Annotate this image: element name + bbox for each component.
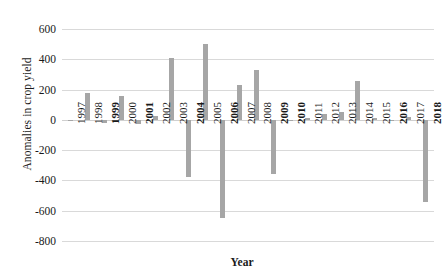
- x-tick-label-2009: 2009: [278, 102, 290, 124]
- bar-1997: [68, 120, 73, 121]
- bar-2004: [186, 120, 191, 178]
- gridline--200: [62, 150, 434, 151]
- x-axis-title: Year: [0, 256, 444, 268]
- y-tick-label--400: -400: [35, 174, 56, 186]
- bar-2018: [423, 120, 428, 202]
- x-tick-label-2014: 2014: [363, 102, 375, 124]
- x-tick-label-2003: 2003: [177, 102, 189, 124]
- x-tick-label-1998: 1998: [92, 102, 104, 124]
- y-tick-label-200: 200: [39, 84, 56, 96]
- x-tick-label-1999: 1999: [109, 102, 121, 124]
- x-tick-label-2008: 2008: [261, 102, 273, 124]
- x-tick-label-2000: 2000: [126, 102, 138, 124]
- gridline--600: [62, 211, 434, 212]
- y-tick-label-400: 400: [39, 53, 56, 65]
- y-tick-label-600: 600: [39, 23, 56, 35]
- x-tick-label-2018: 2018: [431, 102, 443, 124]
- x-tick-label-2017: 2017: [414, 102, 426, 124]
- y-tick-label--800: -800: [35, 235, 56, 247]
- y-axis-title: Anomalies in crop yield: [21, 19, 33, 209]
- y-tick-label-0: 0: [50, 114, 56, 126]
- x-tick-label-2002: 2002: [160, 102, 172, 124]
- x-tick-label-2010: 2010: [295, 102, 307, 124]
- x-tick-label-2007: 2007: [245, 102, 257, 124]
- gridline--800: [62, 241, 434, 242]
- gridline-200: [62, 90, 434, 91]
- y-tick-label--600: -600: [35, 205, 56, 217]
- gridline--400: [62, 180, 434, 181]
- x-tick-label-1997: 1997: [75, 102, 87, 124]
- plot-area: 6004002000-200-400-600-800 1997199819992…: [62, 14, 434, 241]
- bar-2009: [271, 120, 276, 174]
- x-tick-label-2001: 2001: [143, 102, 155, 124]
- x-tick-label-2016: 2016: [397, 102, 409, 124]
- x-tick-label-2013: 2013: [346, 102, 358, 124]
- x-tick-label-2011: 2011: [312, 102, 324, 124]
- gridline-400: [62, 59, 434, 60]
- gridline-600: [62, 29, 434, 30]
- x-tick-label-2005: 2005: [211, 102, 223, 124]
- x-tick-label-2004: 2004: [194, 102, 206, 124]
- bar-2006: [220, 120, 225, 218]
- x-tick-label-2012: 2012: [329, 102, 341, 124]
- crop-yield-anomaly-chart: Anomalies in crop yield 6004002000-200-4…: [0, 0, 444, 279]
- x-tick-label-2015: 2015: [380, 102, 392, 124]
- x-tick-label-2006: 2006: [228, 102, 240, 124]
- y-tick-label--200: -200: [35, 144, 56, 156]
